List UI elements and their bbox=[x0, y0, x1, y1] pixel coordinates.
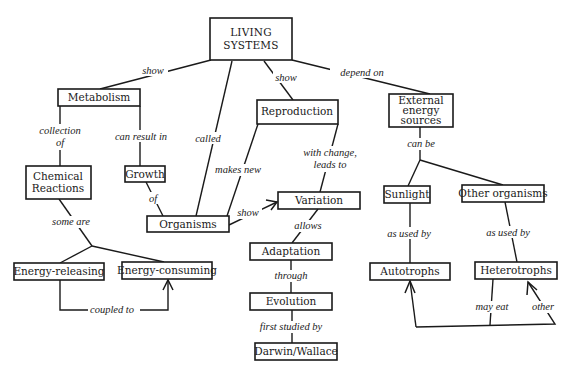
node-metabolism-label: Metabolism bbox=[68, 91, 131, 103]
node-energy-releasing: Energy-releasing bbox=[13, 263, 104, 280]
node-adaptation-label: Adaptation bbox=[261, 245, 321, 257]
link-label-allows: allows bbox=[294, 220, 321, 231]
node-autotrophs: Autotrophs bbox=[370, 263, 450, 280]
node-evolution-label: Evolution bbox=[266, 295, 317, 307]
node-darwin-wallace-label: Darwin/Wallace bbox=[254, 345, 338, 357]
link-label-with-change: with change, bbox=[303, 147, 357, 158]
link-label-through: through bbox=[275, 270, 308, 281]
link-label-depend-on: depend on bbox=[340, 67, 383, 78]
link-label-leads-to: leads to bbox=[314, 159, 347, 170]
node-darwin-wallace: Darwin/Wallace bbox=[254, 343, 338, 360]
node-energy-releasing-label: Energy-releasing bbox=[13, 265, 104, 277]
node-metabolism: Metabolism bbox=[58, 89, 140, 106]
node-energy-consuming: Energy-consuming bbox=[117, 262, 217, 279]
node-external-line3: sources bbox=[401, 114, 442, 126]
edge-fork-other-organisms bbox=[420, 160, 503, 185]
link-label-collection: collection bbox=[39, 125, 80, 136]
link-label-show-metabolism: show bbox=[142, 65, 164, 76]
node-living-systems-line1: LIVING bbox=[230, 26, 272, 38]
arrowhead-autotrophs bbox=[405, 281, 415, 293]
link-label-show-reproduction: show bbox=[275, 72, 297, 83]
link-label-can-result-in: can result in bbox=[115, 131, 167, 142]
node-variation: Variation bbox=[278, 192, 360, 209]
node-external-energy-sources: External energy sources bbox=[389, 94, 453, 127]
node-sunlight: Sunlight bbox=[384, 186, 430, 203]
node-adaptation: Adaptation bbox=[250, 243, 332, 260]
node-energy-consuming-label: Energy-consuming bbox=[117, 264, 217, 276]
node-heterotrophs: Heterotrophs bbox=[475, 262, 557, 279]
link-label-coupled-to: coupled to bbox=[90, 304, 134, 315]
node-variation-label: Variation bbox=[294, 194, 343, 206]
node-growth-label: Growth bbox=[125, 168, 165, 180]
link-label-can-be: can be bbox=[407, 138, 435, 149]
concept-map: show show depend on collection of can re… bbox=[0, 0, 577, 375]
node-sunlight-label: Sunlight bbox=[384, 188, 430, 200]
link-label-called: called bbox=[195, 133, 221, 144]
node-growth: Growth bbox=[125, 166, 165, 182]
node-evolution: Evolution bbox=[250, 293, 332, 310]
edge-fork-energy-releasing bbox=[60, 246, 92, 263]
node-chemical-line1: Chemical bbox=[33, 170, 83, 182]
link-label-may-eat: may eat bbox=[476, 301, 510, 312]
node-other-organisms-label: Other organisms bbox=[458, 187, 547, 199]
node-autotrophs-label: Autotrophs bbox=[379, 265, 439, 277]
node-chemical-line2: Reactions bbox=[32, 182, 84, 194]
node-organisms: Organisms bbox=[147, 216, 229, 232]
link-label-some-are: some are bbox=[52, 216, 90, 227]
node-reproduction: Reproduction bbox=[257, 100, 338, 124]
link-label-show-variation: show bbox=[237, 207, 259, 218]
edge-fork-energy-consuming bbox=[92, 246, 164, 262]
node-chemical-reactions: Chemical Reactions bbox=[26, 166, 91, 199]
link-label-as-used-by-autotrophs: as used by bbox=[387, 228, 431, 239]
node-heterotrophs-label: Heterotrophs bbox=[480, 264, 552, 276]
link-label-other: other bbox=[532, 301, 555, 312]
edge-fork-sunlight bbox=[408, 160, 420, 186]
node-living-systems: LIVING SYSTEMS bbox=[210, 18, 292, 60]
link-label-first-studied-by: first studied by bbox=[260, 321, 323, 332]
link-label-as-used-by-heterotrophs: as used by bbox=[486, 227, 530, 238]
node-reproduction-label: Reproduction bbox=[261, 105, 333, 117]
node-organisms-label: Organisms bbox=[159, 218, 216, 230]
node-other-organisms: Other organisms bbox=[458, 185, 547, 202]
link-label-makes-new: makes new bbox=[215, 164, 261, 175]
node-living-systems-line2: SYSTEMS bbox=[223, 39, 278, 51]
